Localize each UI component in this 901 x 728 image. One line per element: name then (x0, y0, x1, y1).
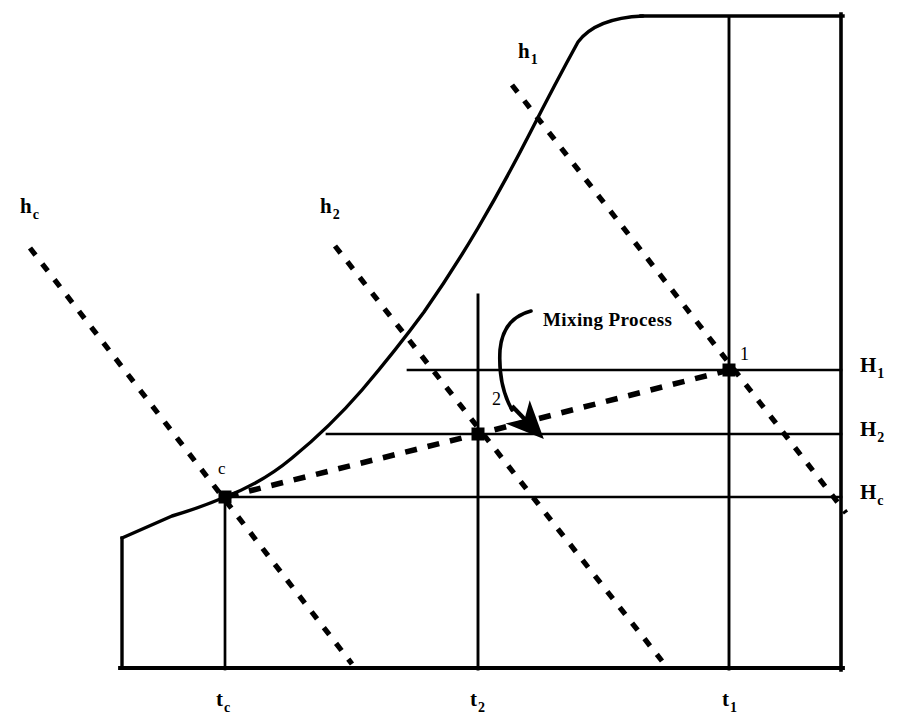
state-point-marker-c (219, 491, 232, 504)
psychrometric-chart: hc h2 h1 H1 H2 Hc tc t2 t1 c 2 1 Mixing … (0, 0, 901, 728)
temperature-label-tc: tc (216, 689, 229, 710)
humidity-label-H2: H2 (860, 419, 883, 440)
humidity-label-Hc-sub: c (877, 493, 883, 508)
chart-drawing-area (0, 0, 901, 728)
saturation-curve (122, 16, 643, 538)
state-point-marker-2 (472, 428, 485, 441)
state-point-label-2: 2 (492, 390, 501, 408)
temperature-lines (225, 17, 729, 669)
humidity-label-H2-base: H (860, 417, 876, 441)
temperature-label-t2-base: t (470, 687, 477, 711)
enthalpy-label-hc-sub: c (33, 207, 39, 222)
humidity-label-Hc: Hc (860, 482, 883, 503)
state-point-label-c: c (218, 460, 226, 477)
humidity-label-H1-base: H (860, 353, 876, 377)
temperature-label-t1-base: t (722, 687, 729, 711)
enthalpy-label-hc: hc (20, 196, 38, 217)
enthalpy-line-hc (30, 248, 352, 664)
enthalpy-label-h2: h2 (320, 196, 339, 217)
mixing-process-arrow (500, 311, 538, 433)
temperature-label-t1-sub: 1 (730, 700, 737, 715)
humidity-label-H1: H1 (860, 355, 883, 376)
temperature-label-tc-sub: c (224, 700, 230, 715)
enthalpy-label-h1: h1 (518, 41, 537, 62)
temperature-label-tc-base: t (216, 687, 223, 711)
enthalpy-line-h1 (512, 85, 846, 513)
enthalpy-label-h2-sub: 2 (333, 207, 340, 222)
state-point-marker-1 (723, 364, 736, 377)
state-point-label-1: 1 (740, 345, 749, 363)
humidity-label-Hc-base: H (860, 480, 876, 504)
humidity-label-H2-sub: 2 (877, 430, 884, 445)
enthalpy-label-h2-base: h (320, 194, 332, 218)
temperature-label-t2: t2 (470, 689, 484, 710)
enthalpy-label-h1-sub: 1 (531, 52, 538, 67)
enthalpy-label-h1-base: h (518, 39, 530, 63)
humidity-label-H1-sub: 1 (877, 366, 884, 381)
chart-frame (120, 14, 843, 670)
temperature-label-t2-sub: 2 (478, 700, 485, 715)
enthalpy-label-hc-base: h (20, 194, 32, 218)
mixing-process-annotation: Mixing Process (543, 310, 672, 329)
temperature-label-t1: t1 (722, 689, 736, 710)
